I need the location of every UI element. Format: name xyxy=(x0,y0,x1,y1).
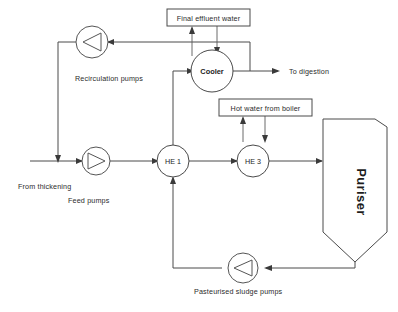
pipe-recirculation-header xyxy=(107,39,250,45)
label-cooler: Cooler xyxy=(200,67,224,76)
pump-feed[interactable] xyxy=(82,147,110,175)
pipe-recirculation-return xyxy=(55,42,76,163)
pipe-sludgepump-to-he1 xyxy=(170,176,222,268)
pipe-feedpump-to-he1 xyxy=(110,158,159,164)
pipe-he1-to-cooler xyxy=(173,68,194,146)
label-final-effluent-water: Final effluent water xyxy=(177,14,241,23)
pipe-puriser-to-sludgepump xyxy=(264,262,355,271)
label-hot-water-from-boiler: Hot water from boiler xyxy=(231,104,301,113)
label-he1: HE 1 xyxy=(165,157,181,166)
flow-diagram-canvas: Final effluent water Hot water from boil… xyxy=(0,0,398,312)
label-pasteurised-sludge-pumps: Pasteurised sludge pumps xyxy=(194,287,283,296)
label-feed-pumps: Feed pumps xyxy=(68,196,110,205)
process-flow-diagram: Final effluent water Hot water from boil… xyxy=(0,0,398,312)
pump-recirculation[interactable] xyxy=(76,26,108,58)
pipe-he3-to-puriser xyxy=(268,158,323,164)
label-recirculation-pumps: Recirculation pumps xyxy=(75,74,143,83)
pipe-effluent-riser xyxy=(189,26,195,56)
pipe-cooler-to-digestion xyxy=(232,68,280,74)
label-from-thickening: From thickening xyxy=(18,182,71,191)
label-puriser: Puriser xyxy=(354,168,369,216)
pump-pasteurised-sludge[interactable] xyxy=(228,253,258,283)
pipe-hotwater-downcomer xyxy=(262,116,268,143)
pipe-hotwater-riser xyxy=(240,116,246,142)
pipe-he1-to-he3 xyxy=(188,158,238,164)
label-he3: HE 3 xyxy=(245,157,261,166)
label-to-digestion: To digestion xyxy=(289,67,329,76)
